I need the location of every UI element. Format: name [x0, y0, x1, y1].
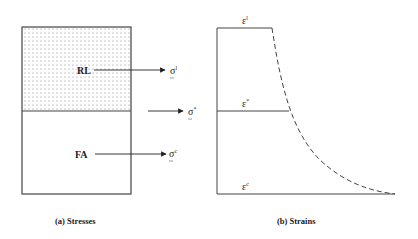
- mid-stress-label: σ*: [188, 106, 196, 117]
- stress-strain-diagram: RL σl σ* FA σc (a) Stresses εl ε*: [0, 0, 418, 239]
- top-strain-label: εl: [242, 15, 248, 26]
- strains-caption: (b) Strains: [277, 216, 316, 226]
- mid-strain-label: ε*: [242, 98, 249, 109]
- rl-label: RL: [77, 65, 91, 76]
- top-stress-label: σl: [170, 65, 177, 76]
- fa-label: FA: [75, 149, 88, 160]
- strains-panel: εl ε* εc (b) Strains: [217, 15, 395, 226]
- bottom-strain-label: εc: [242, 181, 249, 192]
- stresses-caption: (a) Stresses: [55, 216, 96, 226]
- bottom-stress-label: σc: [169, 148, 177, 159]
- stresses-panel: RL σl σ* FA σc (a) Stresses: [22, 27, 196, 226]
- strain-distribution-curve: [272, 28, 395, 194]
